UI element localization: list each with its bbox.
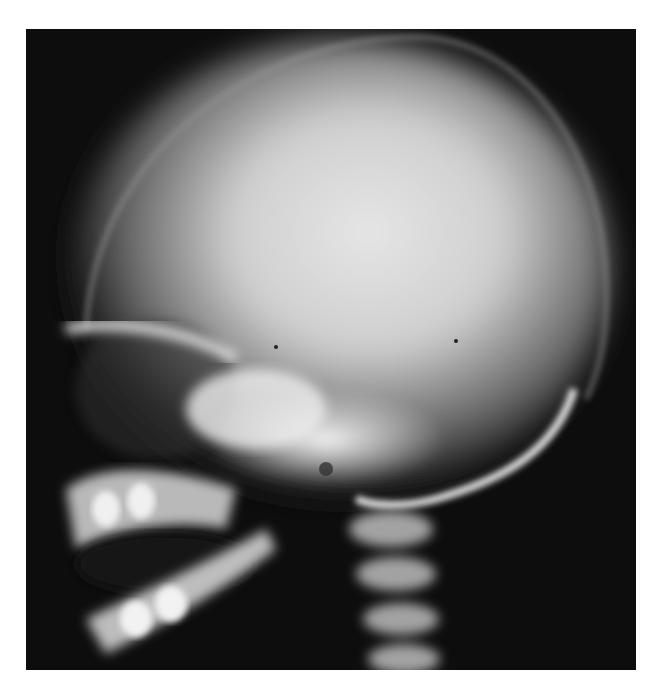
skull-xray-illustration (26, 29, 636, 670)
xray-image (26, 29, 636, 670)
